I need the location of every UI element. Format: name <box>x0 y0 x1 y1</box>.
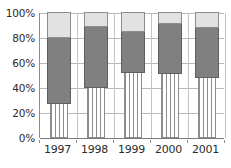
bar-segment-middle-segment-1997 <box>47 37 71 104</box>
stacked-bar-chart: 0%20%40%60%80%100% 19971998199920002001 <box>0 0 231 168</box>
plot-area <box>39 13 224 138</box>
bar-group-2000 <box>151 13 188 138</box>
bar-group-1997 <box>40 13 77 138</box>
bar-segment-bottom-segment-2000 <box>161 73 179 138</box>
bar-segment-bottom-segment-1997 <box>50 103 68 138</box>
bar-group-1998 <box>77 13 114 138</box>
bar-segment-top-segment-1999 <box>121 12 145 32</box>
x-axis: 19971998199920002001 <box>39 140 224 166</box>
x-tick-mark <box>224 140 225 143</box>
bar-group-2001 <box>188 13 225 138</box>
bar-segment-bottom-segment-2001 <box>198 77 216 138</box>
x-tick-mark <box>39 140 40 143</box>
bar-segment-bottom-segment-1998 <box>87 87 105 138</box>
y-tick-label: 20% <box>12 108 35 119</box>
bar-segment-middle-segment-1999 <box>121 31 145 73</box>
vertical-gridline <box>225 13 226 138</box>
bar-group-1999 <box>114 13 151 138</box>
bar-segment-top-segment-1998 <box>84 12 108 27</box>
bars-layer <box>40 13 224 138</box>
x-tick-mark <box>113 140 114 143</box>
bar-segment-middle-segment-2000 <box>158 23 182 74</box>
bar-segment-middle-segment-1998 <box>84 26 108 88</box>
x-tick-mark <box>76 140 77 143</box>
bar-segment-bottom-segment-1999 <box>124 72 142 138</box>
y-tick-label: 100% <box>6 8 35 19</box>
bar-segment-top-segment-1997 <box>47 12 71 38</box>
x-tick-label-1998: 1998 <box>81 144 108 155</box>
y-tick-label: 40% <box>12 83 35 94</box>
x-tick-label-2001: 2001 <box>192 144 219 155</box>
bar-segment-middle-segment-2001 <box>195 27 219 78</box>
y-tick-label: 0% <box>19 133 35 144</box>
y-axis: 0%20%40%60%80%100% <box>0 0 38 168</box>
x-tick-mark <box>150 140 151 143</box>
bar-segment-top-segment-2000 <box>158 12 182 24</box>
x-tick-label-1999: 1999 <box>118 144 145 155</box>
y-tick-label: 80% <box>12 33 35 44</box>
bar-segment-top-segment-2001 <box>195 12 219 28</box>
y-tick-label: 60% <box>12 58 35 69</box>
x-tick-label-2000: 2000 <box>155 144 182 155</box>
x-tick-mark <box>187 140 188 143</box>
gridline <box>40 138 224 139</box>
x-tick-label-1997: 1997 <box>44 144 71 155</box>
